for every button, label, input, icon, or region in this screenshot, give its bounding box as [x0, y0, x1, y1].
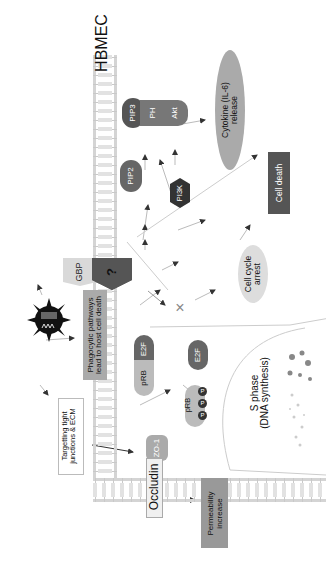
cell-cycle-line2: arrest — [253, 263, 262, 285]
cytokine-line2: release — [230, 96, 239, 124]
pip3-label: PIP3 — [123, 100, 143, 126]
receptor-unknown-label: ? — [102, 262, 122, 282]
cell-cycle-label: Cell cycle arrest — [241, 244, 265, 304]
phagocytic-label: Phagocytic pathways lead to host cell de… — [83, 290, 107, 380]
s-phase-label: S phase (DNA synthesis) — [245, 353, 275, 433]
phosphate-1: P — [198, 387, 207, 396]
phagocytic-line2: lead to host cell death — [95, 296, 103, 374]
targeting-line2: junctions & ECM — [69, 408, 77, 463]
pathway-diagram: HBMEC GBP ? Phagocytic pathways lead to … — [0, 0, 326, 579]
phosphate-2: P — [198, 399, 207, 408]
cytokine-label: Cytokine (IL-6) release — [218, 60, 242, 160]
phosphate-3: P — [198, 411, 207, 420]
e2f-bound-label: E2F — [134, 337, 154, 361]
block-mark: × — [172, 300, 188, 316]
occludin-label: Occludin — [145, 457, 163, 517]
e2f-free-label: E2F — [188, 343, 208, 367]
dna-chromatin-icon — [282, 345, 322, 455]
pip2-label: PIP2 — [121, 163, 141, 189]
s-phase-line2: (DNA synthesis) — [260, 357, 271, 429]
gbp-label: GBP — [70, 256, 90, 288]
cell-type-label: HBMEC — [92, 3, 112, 83]
ph-label: PH — [143, 103, 163, 123]
permeability-label: Permeability increase — [202, 479, 229, 549]
prb-bound-label: pRB — [134, 366, 154, 390]
pi3k-label: PI3K — [170, 181, 190, 205]
bacterium-icon — [27, 298, 71, 342]
cell-death-label: Cell death — [269, 153, 289, 213]
permeability-line2: increase — [215, 498, 223, 528]
targeting-label: Targetting tight junctions & ECM — [57, 399, 81, 474]
prb-phospho-label: pRB — [178, 393, 198, 417]
akt-label: Akt — [165, 103, 185, 123]
